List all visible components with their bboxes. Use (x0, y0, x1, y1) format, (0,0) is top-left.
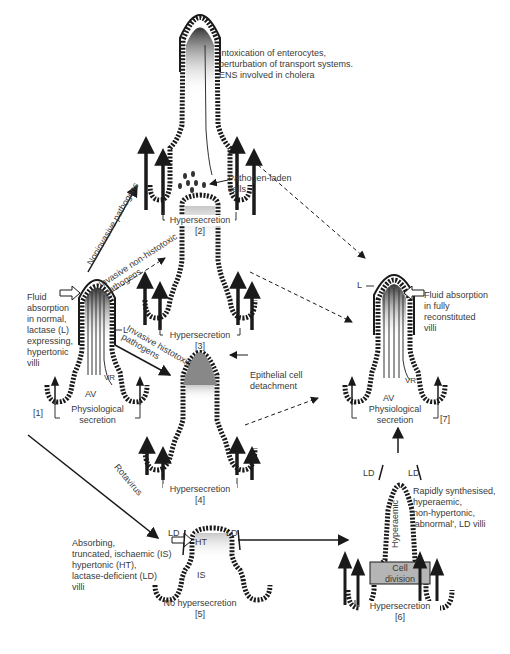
p6-description: Rapidly synthesised, hyperaemic, non-hyp… (413, 486, 496, 530)
p6-ld-left: LD (363, 468, 375, 479)
p5-ld-left: LD (168, 528, 180, 539)
p1-vr-label: VR (104, 372, 115, 383)
p1-id: [1] (33, 408, 43, 419)
villus-panel-4 (141, 353, 258, 489)
p3-secretion-label: Hypersecretion (163, 330, 237, 341)
p6-hyperaemic-label: Hyperaemic (390, 500, 400, 548)
p4-description: Epithelial cell detachment (250, 370, 303, 392)
p2-description: Intoxication of enterocytes, perturbatio… (219, 48, 353, 81)
p7-description: Fluid absorption in fully reconstituted … (424, 290, 488, 334)
p6-cell-division-label: Cell division (370, 563, 430, 585)
p7-secretion-label: Physiological secretion (357, 404, 433, 426)
p5-description: Absorbing, truncated, ischaemic (IS) hyp… (72, 538, 172, 593)
p6-secretion-label: Hypersecretion (360, 601, 440, 612)
p7-lactase-label: L (357, 280, 362, 291)
p5-id: [5] (185, 609, 215, 620)
p7-av-label: AV (383, 393, 394, 404)
p1-secretion-label: Physiological secretion (60, 404, 135, 426)
p1-av-label: AV (85, 389, 96, 400)
p5-secretion-label: No hypersecretion (160, 598, 240, 609)
p2-id: [2] (185, 226, 215, 237)
p5-is-label: IS (197, 570, 206, 581)
p6-ld-right: LD (408, 468, 420, 479)
pathogen-laden-cells-icon (178, 171, 206, 193)
p6-id: [6] (385, 612, 415, 623)
p7-id: [7] (440, 414, 450, 425)
p5-ht-label: HT (195, 537, 207, 548)
p4-id: [4] (185, 495, 215, 506)
p4-to-p7-arrow (245, 398, 318, 425)
p3-to-p7-arrow (250, 272, 352, 322)
p4-secretion-label: Hypersecretion (163, 484, 237, 495)
p2-secretion-label: Hypersecretion (165, 215, 235, 226)
p3-description: Pathogen-laden cells (228, 173, 292, 195)
p7-vr-label: VR (405, 375, 416, 386)
p3-id: [3] (185, 341, 215, 352)
p1-description: Fluid absorption in normal, lactase (L) … (27, 292, 73, 369)
p5-ld-right: LD (226, 528, 238, 539)
